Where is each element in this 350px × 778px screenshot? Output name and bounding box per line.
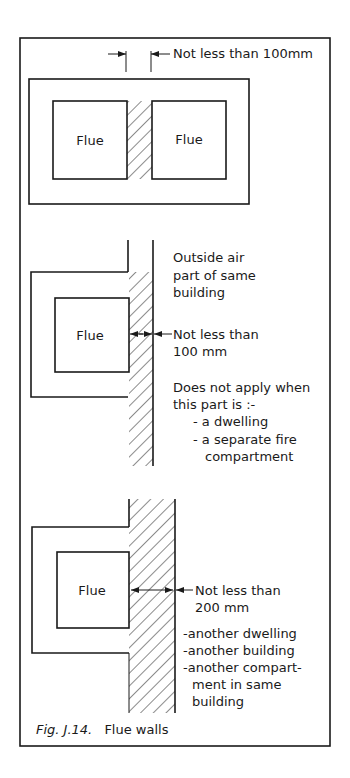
wall-hatch bbox=[129, 272, 153, 466]
exception-item: compartment bbox=[205, 449, 293, 464]
exception-note: Does not apply when this part is :- - a … bbox=[173, 380, 314, 464]
figure-title: Flue walls bbox=[104, 722, 168, 737]
dimension-line: Not less than bbox=[173, 327, 259, 342]
dimension-line: 100 mm bbox=[173, 344, 227, 359]
dimension-label: Not less than 100mm bbox=[173, 46, 313, 61]
flue-right-label: Flue bbox=[175, 132, 202, 147]
dimension-label: Not less than 100 mm bbox=[173, 327, 263, 359]
side-note-line: building bbox=[173, 285, 225, 300]
side-note: Outside air part of same building bbox=[173, 250, 260, 300]
flue-left-label: Flue bbox=[76, 133, 103, 148]
applies-item: building bbox=[192, 694, 244, 709]
applies-item: -another building bbox=[183, 643, 295, 658]
figure-caption: Fig. J.14. Flue walls bbox=[36, 722, 169, 737]
flue-label: Flue bbox=[78, 583, 105, 598]
party-wall-hatch bbox=[127, 101, 152, 179]
dimension-label: Not less than 200 mm bbox=[195, 583, 285, 615]
exception-item: - a dwelling bbox=[193, 414, 268, 429]
dimension-line: Not less than bbox=[195, 583, 281, 598]
applies-list: -another dwelling -another building -ano… bbox=[183, 626, 306, 709]
exception-line: Does not apply when bbox=[173, 380, 310, 395]
applies-item: ment in same bbox=[192, 677, 282, 692]
panel-3-separating-wall: Flue Not less than 200 mm -another dwell… bbox=[32, 499, 306, 713]
side-note-line: Outside air bbox=[173, 250, 245, 265]
dimension-line: 200 mm bbox=[195, 600, 249, 615]
wall-hatch bbox=[129, 499, 175, 713]
side-note-line: part of same bbox=[173, 268, 256, 283]
applies-item: -another dwelling bbox=[183, 626, 297, 641]
exception-item: - a separate fire bbox=[193, 432, 297, 447]
applies-item: -another compart- bbox=[183, 660, 302, 675]
figure-number: Fig. J.14. bbox=[36, 722, 92, 737]
flue-label: Flue bbox=[76, 328, 103, 343]
exception-line: this part is :- bbox=[173, 397, 256, 412]
panel-1-two-flues: Flue Flue Not less than 100mm bbox=[29, 46, 313, 204]
panel-2-external-wall: Flue Outside air part of same building N… bbox=[31, 240, 314, 466]
flue-walls-diagram: Flue Flue Not less than 100mm Flue Outsi… bbox=[0, 0, 350, 778]
